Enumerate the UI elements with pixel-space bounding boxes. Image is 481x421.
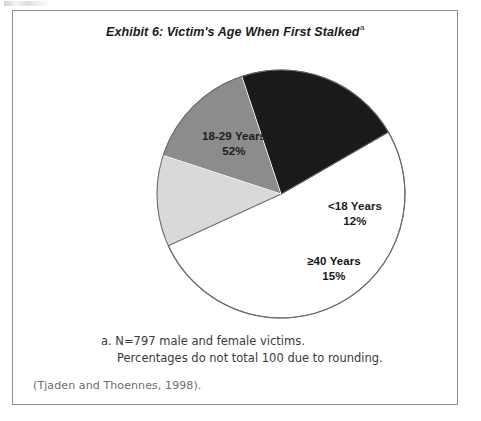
scan-artifact [4, 1, 48, 6]
pie-label-18-29-category: 18-29 Years [202, 130, 266, 142]
footnote-line-2: Percentages do not total 100 due to roun… [101, 350, 431, 367]
pie-label-under-18-category: <18 Years [328, 200, 382, 212]
exhibit-frame: Exhibit 6: Victim's Age When First Stalk… [12, 10, 458, 405]
pie-label-30-39: 30-39 Years 22% [158, 256, 284, 285]
pie-label-40-plus: ≥40 Years 15% [282, 254, 386, 283]
pie-label-40-plus-value: 15% [282, 269, 386, 284]
pie-label-under-18-value: 12% [301, 214, 409, 229]
pie-chart-svg [136, 49, 426, 339]
footnote-line-1: a. N=797 male and female victims. [101, 333, 431, 350]
exhibit-citation: (Tjaden and Thoennes, 1998). [33, 379, 201, 392]
pie-label-18-29: 18-29 Years 52% [159, 129, 309, 158]
pie-label-under-18: <18 Years 12% [301, 199, 409, 228]
pie-label-30-39-category: 30-39 Years [189, 257, 253, 269]
pie-label-40-plus-category: ≥40 Years [307, 255, 361, 267]
exhibit-footnote: a. N=797 male and female victims. Percen… [101, 333, 431, 367]
pie-label-18-29-value: 52% [159, 144, 309, 159]
pie-label-30-39-value: 22% [158, 271, 284, 286]
